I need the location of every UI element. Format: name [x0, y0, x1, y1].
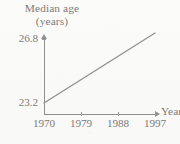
data-series-line: [44, 33, 155, 103]
chart-plot-area: [0, 0, 180, 144]
chart-screenshot: Median age (years) 26.8 23.2 1970 1979 1…: [0, 0, 180, 144]
